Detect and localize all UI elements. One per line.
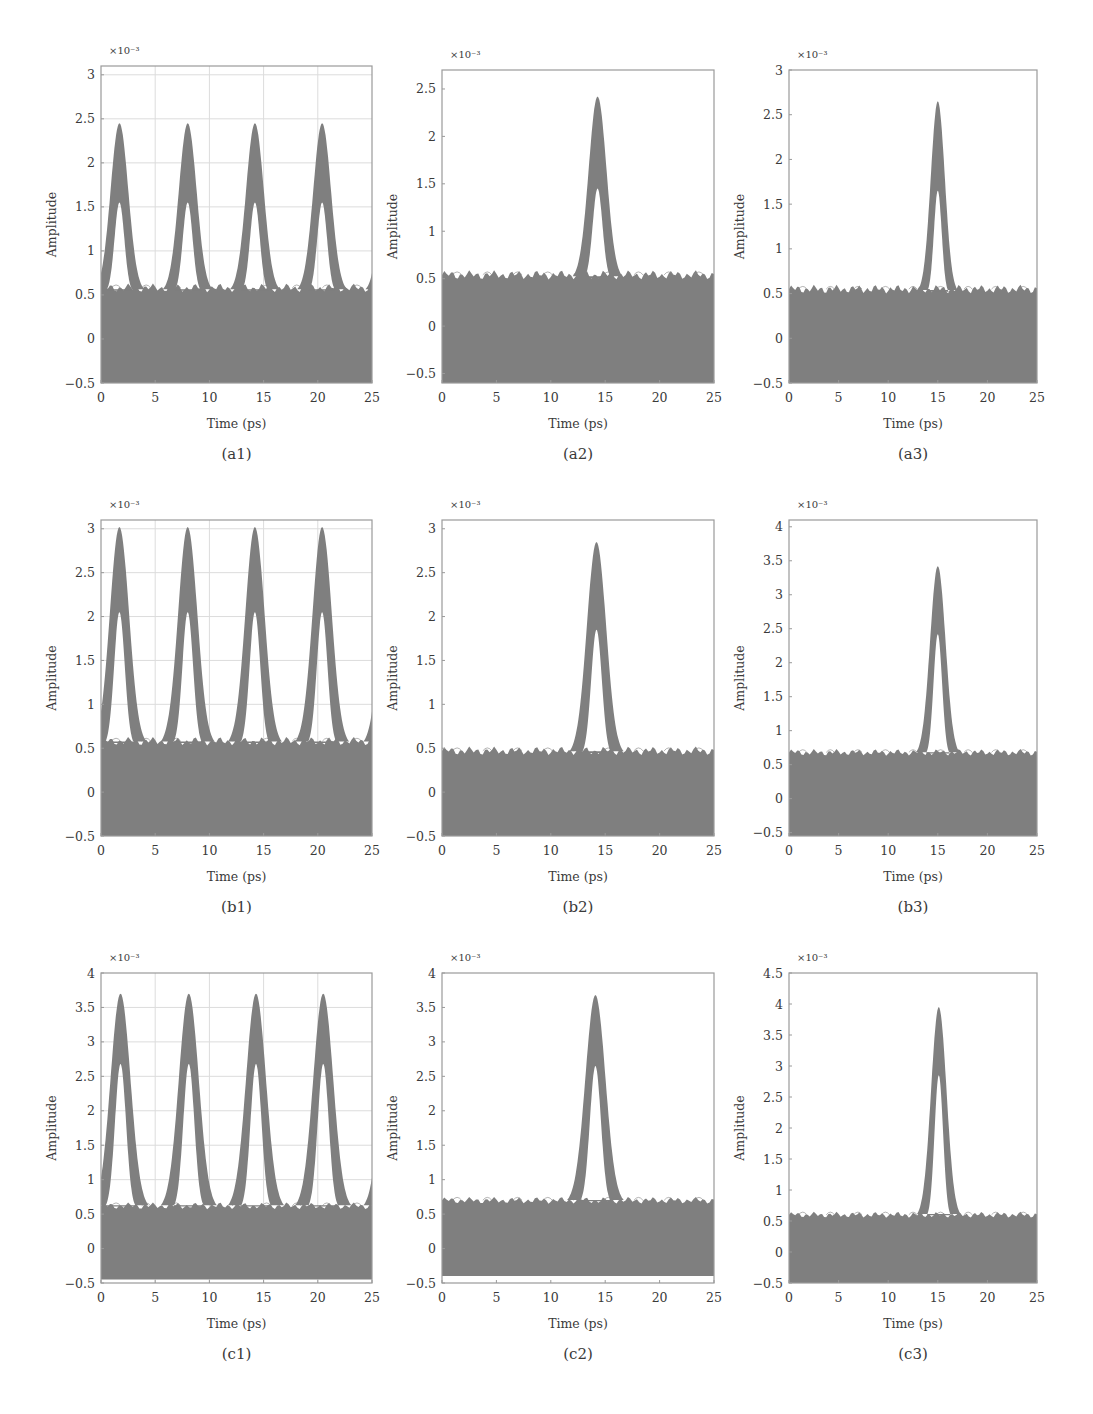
- y-tick-label: −0.5: [753, 376, 783, 391]
- y-tick-label: 1.5: [75, 199, 95, 214]
- y-tick-label: 0.5: [416, 741, 436, 756]
- noise-floor: [442, 1197, 714, 1276]
- x-tick-label: 10: [543, 843, 559, 858]
- x-axis: 0510152025: [97, 380, 380, 405]
- y-tick-label: 1: [775, 1183, 783, 1198]
- y-tick-label: 2.5: [75, 1069, 95, 1084]
- pulse-1: [916, 566, 960, 753]
- y-tick-label: 3: [87, 521, 95, 536]
- y-tick-label: 0.5: [75, 741, 95, 756]
- x-tick-label: 15: [930, 390, 946, 405]
- x-tick-label: 0: [438, 843, 446, 858]
- x-tick-label: 0: [785, 390, 793, 405]
- y-tick-label: 2: [775, 152, 783, 167]
- pulse-3: [228, 527, 282, 743]
- pulse-3: [228, 994, 284, 1207]
- x-tick-label: 5: [835, 843, 843, 858]
- x-tick-label: 10: [543, 1290, 559, 1305]
- eye-traces: [92, 994, 419, 1280]
- x-tick-label: 0: [785, 1290, 793, 1305]
- x-tick-label: 5: [151, 390, 159, 405]
- y-tick-label: 3.5: [75, 1000, 95, 1015]
- panel-caption: (b1): [221, 898, 252, 916]
- y-tick-label: 1.5: [75, 1138, 95, 1153]
- y-tick-label: 0.5: [763, 286, 783, 301]
- y-tick-label: −0.5: [406, 1276, 436, 1291]
- panel-c2: −0.500.511.522.533.540510152025×10⁻³Ampl…: [385, 952, 722, 1363]
- x-tick-label: 25: [1029, 390, 1045, 405]
- noise-floor: [442, 270, 714, 383]
- pulse-2: [161, 527, 215, 743]
- panel-caption: (b3): [898, 898, 929, 916]
- panel-a1: −0.500.511.522.530510152025×10⁻³Amplitud…: [44, 45, 415, 463]
- x-tick-label: 0: [785, 843, 793, 858]
- y-tick-label: 2: [87, 609, 95, 624]
- noise-floor: [101, 737, 372, 836]
- y-tick-label: 2: [775, 655, 783, 670]
- panel-caption: (a2): [563, 445, 593, 463]
- noise-floor: [789, 1212, 1037, 1283]
- y-axis: −0.500.511.522.53: [753, 63, 792, 391]
- x-tick-label: 20: [979, 1290, 995, 1305]
- x-tick-label: 5: [151, 843, 159, 858]
- panel-b2: −0.500.511.522.530510152025×10⁻³Amplitud…: [385, 499, 722, 916]
- y-tick-label: 0: [87, 331, 95, 346]
- y-tick-label: 0: [87, 1241, 95, 1256]
- x-tick-label: 10: [543, 390, 559, 405]
- y-tick-label: 2.5: [75, 565, 95, 580]
- y-axis: −0.500.511.522.533.54: [65, 966, 104, 1291]
- x-tick-label: 0: [97, 390, 105, 405]
- panel-caption: (b2): [563, 898, 594, 916]
- x-tick-label: 20: [652, 843, 668, 858]
- y-tick-label: 0.5: [75, 1207, 95, 1222]
- y-multiplier: ×10⁻³: [797, 952, 827, 963]
- eye-traces: [442, 995, 714, 1276]
- noise-floor: [789, 285, 1037, 383]
- y-tick-label: −0.5: [65, 829, 95, 844]
- pulse-2: [161, 994, 217, 1207]
- x-tick-label: 10: [880, 843, 896, 858]
- x-tick-label: 5: [835, 390, 843, 405]
- pulse-1: [569, 542, 623, 753]
- pulse-1: [918, 101, 958, 291]
- x-axis-label: Time (ps): [883, 869, 943, 884]
- pulse-1: [567, 995, 624, 1201]
- x-axis-label: Time (ps): [207, 1316, 267, 1331]
- x-tick-label: 15: [256, 843, 272, 858]
- y-tick-label: 3: [87, 67, 95, 82]
- y-axis-label: Amplitude: [732, 1095, 747, 1161]
- noise-floor: [101, 1203, 372, 1280]
- y-tick-label: 0: [87, 785, 95, 800]
- x-axis-label: Time (ps): [548, 1316, 608, 1331]
- x-axis-label: Time (ps): [207, 416, 267, 431]
- eye-traces: [442, 97, 714, 383]
- y-tick-label: 0: [775, 331, 783, 346]
- y-axis-label: Amplitude: [732, 645, 747, 711]
- x-tick-label: 5: [492, 843, 500, 858]
- x-tick-label: 25: [364, 390, 380, 405]
- y-tick-label: 2.5: [416, 1069, 436, 1084]
- x-axis: 0510152025: [438, 1280, 722, 1305]
- noise-floor: [789, 749, 1037, 836]
- eye-diagram-figure: −0.500.511.522.530510152025×10⁻³Amplitud…: [0, 0, 1093, 1414]
- panel-a3: −0.500.511.522.530510152025×10⁻³Amplitud…: [732, 49, 1045, 463]
- x-tick-label: 20: [652, 390, 668, 405]
- x-tick-label: 25: [364, 843, 380, 858]
- x-tick-label: 20: [979, 843, 995, 858]
- y-tick-label: 1.5: [763, 197, 783, 212]
- eye-traces: [789, 101, 1037, 383]
- y-multiplier: ×10⁻³: [109, 499, 139, 510]
- y-tick-label: 0.5: [763, 757, 783, 772]
- panel-caption: (a3): [898, 445, 928, 463]
- panel-b1: −0.500.511.522.530510152025×10⁻³Amplitud…: [44, 499, 418, 916]
- y-axis-label: Amplitude: [44, 1095, 59, 1161]
- y-tick-label: 1.5: [75, 653, 95, 668]
- y-tick-label: 2: [428, 1103, 436, 1118]
- y-tick-label: 1.5: [416, 1138, 436, 1153]
- y-axis: −0.500.511.522.5: [406, 81, 445, 381]
- y-tick-label: 0: [775, 791, 783, 806]
- y-tick-label: 3.5: [763, 553, 783, 568]
- eye-traces: [92, 527, 417, 836]
- y-axis: −0.500.511.522.53: [65, 67, 104, 390]
- panel-b3: −0.500.511.522.533.540510152025×10⁻³Ampl…: [732, 499, 1045, 916]
